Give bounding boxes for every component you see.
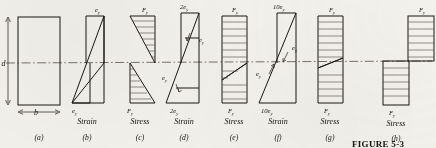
stress-profile-lower-e: [222, 63, 247, 103]
stress-top-label-c: Fy: [141, 6, 149, 15]
strain-bottom-label-b: ey: [72, 107, 78, 116]
stress-top-label-g: Fy: [328, 6, 336, 15]
width-label: b: [34, 108, 38, 117]
strain-inner-label-upper-d: ey: [199, 36, 205, 45]
stress-profile-upper-c: [130, 16, 155, 63]
panel-letter-c: (c): [136, 133, 145, 142]
strain-slope-d: [166, 13, 199, 103]
panel-caption-c: Stress: [131, 117, 150, 126]
stress-bottom-label-h: Fy: [388, 109, 396, 118]
inner-arrow-upper-f: [283, 52, 288, 62]
panel-caption-e: Stress: [225, 117, 244, 126]
strain-inner-label-lower-d: ey: [162, 74, 168, 83]
strain-top-label-b: ey: [95, 6, 101, 15]
stress-hatching-c: [130, 21, 155, 99]
panel-caption-b: Strain: [77, 117, 97, 126]
strain-top-label-f: 10ey: [273, 3, 286, 12]
stress-bottom-label-e: Fy: [227, 107, 235, 116]
figure-caption: FIGURE 5-3: [352, 139, 404, 148]
panel-b-strain: ey ey Strain (b): [72, 6, 104, 142]
panel-letter-g: (g): [326, 133, 335, 142]
panel-c-stress: Fy Fy Stress (c): [126, 6, 155, 142]
strain-bottom-label-d: 2ey: [170, 107, 179, 116]
panel-h-stress: Fy Fy Stress (h): [383, 6, 434, 143]
strain-bottom-label-f: 10ey: [261, 107, 274, 116]
strain-slope-b: [72, 16, 104, 103]
stress-bottom-label-c: Fy: [126, 107, 134, 116]
panel-a-cross-section: d b (a): [2, 17, 61, 142]
stress-profile-upper-e: [222, 16, 247, 80]
panel-letter-a: (a): [35, 133, 44, 142]
panel-caption-d: Strain: [174, 117, 194, 126]
panel-d-strain: 2ey ey ey 2ey Strain (d): [162, 3, 205, 142]
panel-caption-h: Stress: [387, 119, 406, 128]
panel-caption-g: Stress: [321, 117, 340, 126]
panel-letter-e: (e): [230, 133, 239, 142]
strain-inner-label-lower-f: ey: [256, 70, 262, 79]
panel-letter-b: (b): [83, 133, 92, 142]
panel-caption-f: Strain: [268, 117, 288, 126]
stress-top-label-e: Fy: [231, 6, 239, 15]
panel-g-stress: Fy Fy Stress (g): [318, 6, 343, 142]
stress-profile-upper-h: [408, 16, 434, 61]
panel-letter-f: (f): [274, 133, 282, 142]
inner-arrow-upper-d: [186, 33, 190, 41]
strain-top-label-d: 2ey: [180, 3, 189, 12]
panel-f-strain: 10ey ey ey 10ey Strain (f): [256, 3, 298, 142]
stress-hatching-e: [222, 22, 247, 99]
beam-yielding-figure: d b (a) ey ey Strain (b): [0, 0, 436, 148]
stress-profile-upper-g: [318, 16, 343, 68]
figure-root: d b (a) ey ey Strain (b): [0, 0, 436, 148]
stress-profile-lower-h: [383, 61, 409, 105]
stress-top-label-h: Fy: [418, 6, 426, 15]
panel-letter-d: (d): [180, 133, 189, 142]
panel-e-stress: Fy Fy Stress (e): [222, 6, 247, 142]
strain-inner-label-upper-f: ey: [292, 44, 298, 53]
section-outline: [18, 17, 60, 105]
neutral-axis-line: [6, 61, 432, 63]
stress-bottom-label-g: Fy: [323, 107, 331, 116]
depth-label: d: [2, 59, 7, 68]
